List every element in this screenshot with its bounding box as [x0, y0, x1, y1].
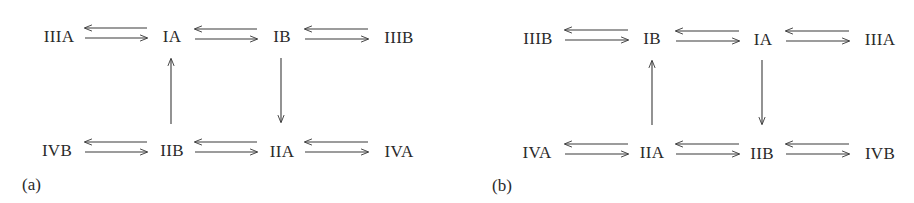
state-label: IVA [523, 144, 552, 161]
state-label: IA [163, 28, 182, 45]
equilibrium-arrow-a-top-1 [85, 28, 147, 38]
state-label: IIA [640, 144, 665, 161]
equilibrium-arrow-b-bottom-3 [786, 144, 849, 154]
state-label: IVA [385, 143, 414, 160]
arrow-layer [0, 0, 914, 203]
equilibrium-arrow-b-bottom-2 [676, 144, 739, 154]
panel-label-b: (b) [492, 177, 512, 194]
state-label: IIB [160, 142, 184, 159]
equilibrium-arrow-b-top-1 [565, 30, 628, 40]
state-label: IIIB [384, 29, 414, 46]
state-label: IB [643, 30, 661, 47]
equilibrium-arrow-a-top-2 [195, 29, 257, 39]
state-label: IB [273, 28, 291, 45]
state-label: IIA [270, 143, 295, 160]
state-label: IIIB [523, 30, 553, 47]
state-label: IA [754, 31, 773, 48]
state-label: IIIA [865, 31, 895, 48]
equilibrium-arrow-b-top-2 [676, 31, 739, 41]
state-label: IIB [750, 145, 774, 162]
equilibrium-arrow-b-top-3 [786, 31, 849, 41]
equilibrium-arrow-a-bottom-1 [85, 142, 147, 152]
equilibrium-arrow-a-bottom-2 [195, 142, 257, 152]
equilibrium-arrow-a-bottom-3 [305, 142, 368, 152]
equilibrium-arrow-a-top-3 [305, 29, 368, 39]
state-label: IIIA [44, 28, 74, 45]
panel-label-a: (a) [22, 176, 41, 193]
state-label: IVB [865, 145, 895, 162]
equilibrium-arrow-b-bottom-1 [565, 144, 628, 154]
state-label: IVB [42, 142, 72, 159]
